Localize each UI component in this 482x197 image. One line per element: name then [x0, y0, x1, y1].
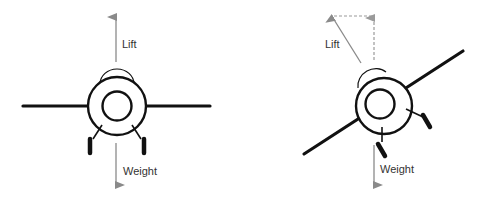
weight-label-level: Weight: [123, 165, 157, 177]
fuselage-circle: [88, 77, 146, 135]
lift-label-banked: Lift: [325, 38, 340, 50]
right-wheel-tilted: [423, 115, 430, 127]
diagram-canvas: Lift Weight Lift Weight: [0, 0, 482, 197]
fuselage-circle-tilted: [356, 78, 412, 134]
weight-label-banked: Weight: [380, 163, 414, 175]
lift-label-level: Lift: [122, 38, 137, 50]
level-aircraft: [23, 17, 210, 185]
left-wheel-tilted: [378, 144, 385, 156]
